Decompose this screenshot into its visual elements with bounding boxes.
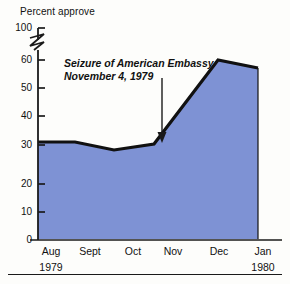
annotation-line-2: November 4, 1979 [64, 70, 214, 83]
x-tick-label-oct: Oct [112, 245, 154, 257]
approval-rating-area-chart: Percent approve 100 60 50 40 30 20 10 [0, 0, 290, 284]
x-tick-label-jan: Jan [242, 245, 284, 257]
y-tick-label-20: 20 [6, 178, 32, 189]
y-tick-label-10: 10 [6, 206, 32, 217]
bottom-rule-divider [8, 274, 282, 275]
x-tick-label-aug: Aug [30, 245, 72, 257]
annotation-line-1: Seizure of American Embassy [64, 57, 214, 70]
y-tick-label-30: 30 [6, 139, 32, 150]
x-year-label-1979: 1979 [28, 261, 74, 273]
x-tick-label-dec: Dec [198, 245, 240, 257]
annotation-text: Seizure of American Embassy November 4, … [64, 57, 214, 82]
y-tick-label-40: 40 [6, 110, 32, 121]
y-tick-label-0: 0 [6, 234, 32, 245]
y-axis-break-zigzag-icon [30, 34, 44, 50]
y-tick-label-60: 60 [6, 54, 32, 65]
area-fill-polygon [38, 60, 258, 239]
x-year-label-1980: 1980 [240, 261, 286, 273]
y-tick-label-100: 100 [6, 22, 32, 33]
chart-canvas [0, 0, 290, 284]
x-tick-label-sept: Sept [69, 245, 111, 257]
x-tick-label-nov: Nov [152, 245, 194, 257]
y-tick-label-50: 50 [6, 82, 32, 93]
